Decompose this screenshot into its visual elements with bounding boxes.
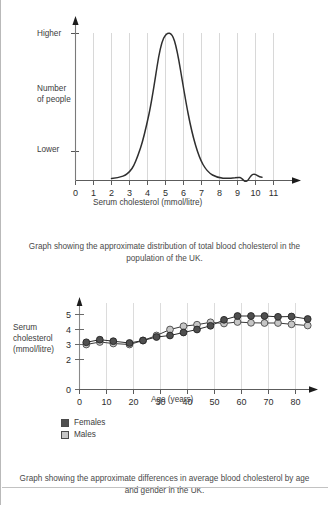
legend-label-females: Females: [74, 417, 105, 429]
svg-text:5: 5: [66, 310, 71, 320]
svg-text:80: 80: [290, 397, 300, 407]
figure-cholesterol-distribution: 0 1 2 3 4 5 6 7 8 9 10 11 Higher: [1, 0, 328, 292]
chart-1-ylabel-higher: Higher: [37, 28, 61, 39]
chart-2-y-axis: [77, 297, 83, 390]
page-bottom-divider: [2, 487, 328, 488]
chart-1-ylabel-lower: Lower: [37, 144, 59, 155]
chart-1-y-axis: [72, 16, 78, 180]
figure-1-caption: Graph showing the approximate distributi…: [15, 241, 314, 264]
chart-2-legend: Females Males: [61, 417, 105, 441]
svg-text:50: 50: [209, 397, 219, 407]
chart-2-y-axis-title-line1: Serum: [13, 323, 37, 332]
svg-text:4: 4: [145, 188, 150, 198]
chart-1-ylabel-number: Number of people: [37, 83, 71, 105]
chart-cholesterol-by-age-gender: 5 4 3 2 0: [1, 292, 328, 410]
chart-1-x-axis-title: Serum cholesterol (mmol/litre): [93, 198, 202, 207]
svg-text:3: 3: [127, 188, 132, 198]
svg-text:11: 11: [269, 188, 278, 198]
svg-text:0: 0: [66, 385, 71, 395]
svg-text:2: 2: [66, 355, 71, 365]
svg-text:8: 8: [217, 188, 222, 198]
svg-text:7: 7: [199, 188, 204, 198]
svg-text:1: 1: [91, 188, 96, 198]
chart-2-y-axis-title-line3: (mmol/litre): [13, 345, 54, 354]
svg-text:6: 6: [181, 188, 186, 198]
figure-2-caption: Graph showing the approximate difference…: [15, 473, 314, 496]
legend-swatch-males-icon: [61, 431, 69, 439]
figure-cholesterol-by-age-gender: 5 4 3 2 0: [1, 292, 328, 505]
chart-2-y-axis-title: Serum cholesterol (mmol/litre): [13, 322, 54, 355]
chart-1-distribution-curve: [112, 33, 263, 181]
svg-text:20: 20: [128, 397, 138, 407]
chart-2-ytick-labels: 5 4 3 2 0: [66, 310, 71, 395]
svg-text:60: 60: [236, 397, 246, 407]
legend-item-females: Females: [61, 417, 105, 429]
chart-1-ylabel-number-line1: Number: [37, 84, 66, 93]
legend-item-males: Males: [61, 429, 105, 441]
svg-text:10: 10: [101, 397, 111, 407]
chart-2-x-axis-title: Age (years): [151, 395, 193, 404]
chart-cholesterol-distribution: 0 1 2 3 4 5 6 7 8 9 10 11 Higher: [1, 0, 328, 222]
chart-1-xtick-labels: 0 1 2 3 4 5 6 7 8 9 10 11: [73, 188, 278, 198]
svg-text:2: 2: [109, 188, 114, 198]
svg-text:5: 5: [163, 188, 168, 198]
svg-text:4: 4: [66, 325, 71, 335]
svg-text:0: 0: [73, 188, 78, 198]
chart-1-x-axis: [76, 177, 302, 183]
chart-2-x-axis: [80, 386, 319, 392]
chart-1-ylabel-number-line2: of people: [37, 95, 71, 104]
svg-text:10: 10: [250, 188, 260, 198]
legend-swatch-females-icon: [61, 419, 69, 427]
svg-text:3: 3: [66, 340, 71, 350]
svg-text:70: 70: [263, 397, 273, 407]
chart-1-gridlines: [94, 33, 274, 180]
chart-2-series-females-points: [83, 313, 311, 347]
legend-label-males: Males: [74, 429, 96, 441]
svg-text:0: 0: [77, 397, 82, 407]
chart-2-y-axis-title-line2: cholesterol: [13, 334, 53, 343]
svg-text:9: 9: [235, 188, 240, 198]
chart-2-xticks: [80, 390, 296, 395]
